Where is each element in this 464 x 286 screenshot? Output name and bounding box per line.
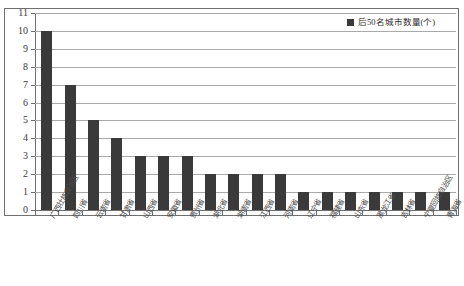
legend: 后50名城市数量(个) (347, 17, 435, 27)
y-tick-label: 7 (6, 80, 28, 90)
legend-label: 后50名城市数量(个) (358, 17, 435, 27)
y-tick-label: 4 (6, 133, 28, 143)
y-tick-label: 9 (6, 44, 28, 54)
bar (275, 174, 286, 210)
bar (182, 156, 193, 210)
y-tick-label: 1 (6, 187, 28, 197)
bar (205, 174, 216, 210)
bar (111, 138, 122, 210)
y-tick-label: 8 (6, 62, 28, 72)
y-tick-label: 2 (6, 169, 28, 179)
y-tick-label: 5 (6, 115, 28, 125)
x-axis-tick-labels: 广西壮族自治区四川省云南省甘肃省山西省安徽省贵州省湖北省湖南省江西省河南省辽宁省… (0, 214, 464, 286)
y-tick-label: 6 (6, 98, 28, 108)
y-tick-label: 10 (6, 26, 28, 36)
bar (88, 120, 99, 210)
bar (252, 174, 263, 210)
bar-series (35, 13, 456, 210)
bar (158, 156, 169, 210)
y-tick-label: 11 (6, 8, 28, 18)
bar-chart: 11109876543210 广西壮族自治区四川省云南省甘肃省山西省安徽省贵州省… (0, 0, 464, 286)
bar (41, 31, 52, 210)
legend-swatch-icon (347, 19, 354, 26)
y-tick-label: 3 (6, 151, 28, 161)
bar (135, 156, 146, 210)
bar (228, 174, 239, 210)
